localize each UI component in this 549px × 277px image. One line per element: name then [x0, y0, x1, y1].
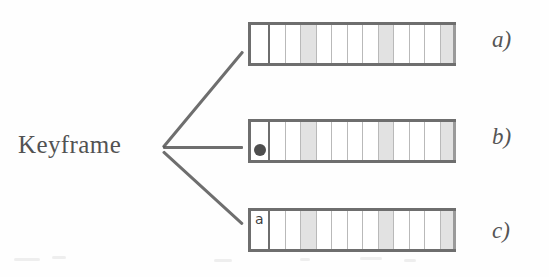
frame-cell — [441, 211, 457, 249]
frame-cell — [410, 122, 426, 160]
panel-letter-a: a) — [492, 27, 511, 53]
scan-speckle — [214, 259, 232, 262]
frame-cell — [286, 122, 302, 160]
keyframe-cell — [248, 25, 270, 63]
frame-cell — [394, 122, 410, 160]
frame-cell — [394, 211, 410, 249]
panel-letter-b: b) — [492, 124, 511, 150]
keyframe-cell — [248, 122, 270, 160]
frame-cell — [425, 25, 441, 63]
keyframe-label: Keyframe — [18, 131, 121, 159]
frame-cell — [425, 122, 441, 160]
frame-cell — [286, 25, 302, 63]
scan-speckle — [404, 259, 416, 262]
frame-cell — [270, 122, 286, 160]
scan-speckle — [360, 257, 382, 260]
keyframe-glyph-label: a — [255, 212, 264, 226]
frame-cell — [379, 211, 395, 249]
frame-cell — [301, 25, 317, 63]
frame-cell — [363, 122, 379, 160]
frame-cell — [332, 211, 348, 249]
scan-speckle — [14, 258, 40, 261]
keyframe-dot-marker-icon — [254, 144, 266, 156]
frame-cell — [363, 25, 379, 63]
connector-line-b — [163, 146, 243, 149]
frame-cell — [441, 122, 457, 160]
frame-cell — [317, 25, 333, 63]
connector-line-a — [162, 51, 244, 149]
frame-cell — [363, 211, 379, 249]
keyframe-cell: a — [248, 211, 270, 249]
frame-cell — [441, 25, 457, 63]
frame-cell — [379, 122, 395, 160]
frame-cell — [270, 211, 286, 249]
frame-cell — [301, 211, 317, 249]
frame-cell — [410, 25, 426, 63]
frame-cell — [332, 25, 348, 63]
frame-cell — [317, 122, 333, 160]
timeline-strip-a — [248, 22, 456, 66]
frame-cell — [394, 25, 410, 63]
frame-cell — [379, 25, 395, 63]
timeline-strip-c: a — [248, 208, 456, 252]
frame-cell — [410, 211, 426, 249]
keyframe-figure: Keyframe a)b)ac) — [0, 0, 549, 277]
panel-letter-c: c) — [492, 218, 510, 244]
frame-cell — [348, 25, 364, 63]
scan-speckle — [300, 258, 310, 261]
frame-cell — [348, 211, 364, 249]
timeline-strip-b — [248, 119, 456, 163]
frame-cell — [332, 122, 348, 160]
frame-cell — [301, 122, 317, 160]
frame-cell — [348, 122, 364, 160]
frame-cell — [286, 211, 302, 249]
frame-cell — [317, 211, 333, 249]
connector-line-c — [162, 150, 244, 225]
frame-cell — [425, 211, 441, 249]
scan-speckle — [52, 256, 66, 259]
frame-cell — [270, 25, 286, 63]
